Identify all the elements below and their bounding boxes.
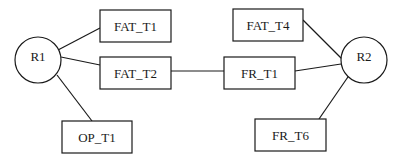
node-label: FAT_T1 xyxy=(114,19,157,34)
node-fr-t6: FR_T6 xyxy=(255,119,326,151)
node-r1: R1 xyxy=(15,37,61,83)
node-fat-t2: FAT_T2 xyxy=(100,57,171,89)
node-label: FR_T6 xyxy=(272,128,309,143)
node-label: FAT_T4 xyxy=(246,18,290,33)
edge-r1-to-fat-t2 xyxy=(61,57,100,65)
node-label: R1 xyxy=(30,49,45,64)
node-label: FR_T1 xyxy=(241,66,278,81)
node-r2: R2 xyxy=(341,37,387,83)
node-label: R2 xyxy=(356,49,371,64)
edge-fr-t1-to-r2 xyxy=(295,64,341,71)
node-fr-t1: FR_T1 xyxy=(224,57,295,89)
node-op-t1: OP_T1 xyxy=(62,121,132,153)
node-fat-t4: FAT_T4 xyxy=(233,9,303,41)
edge-r2-to-fr-t6 xyxy=(319,74,350,119)
edge-fat-t4-to-r2 xyxy=(303,20,343,60)
network-diagram: R1R2FAT_T1FAT_T2OP_T1FAT_T4FR_T1FR_T6 xyxy=(0,0,404,163)
nodes: R1R2FAT_T1FAT_T2OP_T1FAT_T4FR_T1FR_T6 xyxy=(15,9,387,153)
node-fat-t1: FAT_T1 xyxy=(100,10,171,42)
edge-r1-to-fat-t1 xyxy=(58,28,100,50)
edge-r1-to-op-t1 xyxy=(57,75,92,121)
node-label: FAT_T2 xyxy=(114,66,157,81)
node-label: OP_T1 xyxy=(78,130,116,145)
